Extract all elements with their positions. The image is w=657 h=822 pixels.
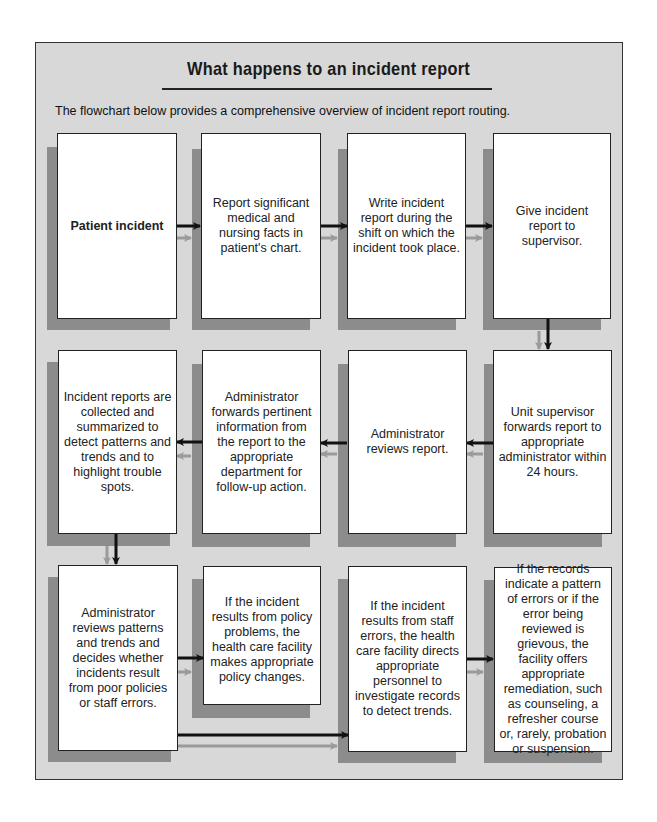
step-3-box: Write incident report during the shift o…	[347, 133, 466, 319]
arrow-3-to-4	[466, 226, 492, 238]
step-5-box: Unit supervisor forwards report to appro…	[493, 350, 612, 534]
step-1-text: Patient incident	[70, 219, 163, 234]
arrow-7-to-8	[177, 442, 202, 456]
step-6-box: Administrator reviews report.	[348, 350, 467, 534]
step-12-text: If the records indicate a pattern of err…	[499, 562, 607, 757]
step-6-text: Administrator reviews report.	[353, 427, 462, 457]
step-10-box: If the incident results from policy prob…	[203, 566, 321, 705]
step-2-text: Report significant medical and nursing f…	[206, 196, 316, 256]
arrow-9-to-11	[178, 735, 348, 746]
step-4-text: Give incident report to supervisor.	[498, 204, 606, 249]
arrow-8-to-9	[107, 534, 116, 564]
step-9-box: Administrator reviews patterns and trend…	[58, 565, 178, 751]
step-1-box: Patient incident	[57, 133, 177, 319]
arrow-5-to-6	[467, 443, 493, 454]
step-10-text: If the incident results from policy prob…	[208, 595, 316, 685]
step-3-text: Write incident report during the shift o…	[352, 196, 461, 256]
step-12-box: If the records indicate a pattern of err…	[494, 567, 612, 752]
arrow-1-to-2	[177, 226, 200, 238]
step-11-text: If the incident results from staff error…	[353, 599, 462, 719]
step-7-text: Administrator forwards pertinent informa…	[207, 390, 316, 495]
arrow-9-to-10	[178, 658, 203, 672]
step-7-box: Administrator forwards pertinent informa…	[202, 350, 321, 534]
step-4-box: Give incident report to supervisor.	[493, 133, 611, 319]
step-8-text: Incident reports are collected and summa…	[63, 390, 172, 495]
arrow-2-to-3	[321, 226, 347, 238]
arrow-6-to-7	[321, 443, 347, 454]
step-5-text: Unit supervisor forwards report to appro…	[498, 405, 607, 480]
step-2-box: Report significant medical and nursing f…	[201, 133, 321, 319]
step-9-text: Administrator reviews patterns and trend…	[63, 606, 173, 711]
step-8-box: Incident reports are collected and summa…	[58, 350, 177, 534]
arrow-4-to-5	[539, 319, 548, 349]
step-11-box: If the incident results from staff error…	[348, 566, 467, 752]
arrow-11-to-12	[466, 659, 493, 672]
